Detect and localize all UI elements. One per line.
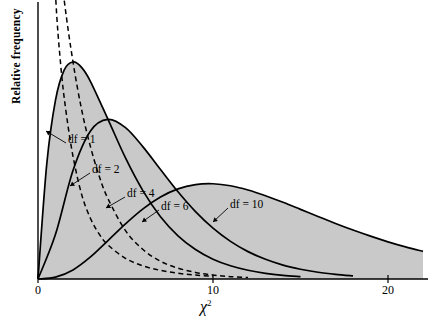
series-label-df-6: df = 6 xyxy=(161,200,189,212)
series-label-df-4: df = 4 xyxy=(127,187,155,199)
series-label-df-2: df = 2 xyxy=(92,163,120,175)
x-tick-label-10: 10 xyxy=(193,283,233,298)
series-label-df-1: df = 1 xyxy=(68,133,96,145)
series-label-df-10: df = 10 xyxy=(230,198,263,210)
x-axis-label: χ2 xyxy=(200,298,212,316)
x-tick-label-0: 0 xyxy=(18,283,58,298)
y-axis-label: Relative frequency xyxy=(10,0,22,104)
x-axis-label-exponent: 2 xyxy=(207,298,212,308)
chart-canvas xyxy=(0,0,441,325)
x-tick-label-20: 20 xyxy=(368,283,408,298)
x-axis-label-base: χ xyxy=(200,298,207,315)
chi-square-distribution-figure: Relative frequency χ2 0 10 20 df = 1 df … xyxy=(0,0,441,325)
